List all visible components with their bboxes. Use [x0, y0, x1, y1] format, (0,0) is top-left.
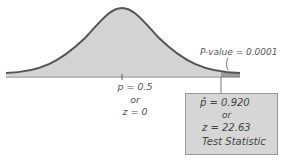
z-null-label: z = 0 [110, 106, 160, 117]
or-label: or [222, 110, 231, 120]
normal-distribution-diagram: p = 0.5 or z = 0 P-value = 0.0001 p̂ = 0… [0, 0, 287, 167]
p-value-arrow [227, 58, 229, 70]
p-null-label: p = 0.5 [110, 81, 160, 92]
z-value: z = 22.63 [202, 122, 251, 133]
p-value-label: P-value = 0.0001 [200, 47, 278, 57]
p-hat-value: p̂ = 0.920 [200, 97, 250, 108]
or-label: or [110, 94, 160, 105]
test-statistic-label: Test Statistic [202, 136, 266, 147]
test-statistic-box: p̂ = 0.920 or z = 22.63 Test Statistic [185, 93, 278, 155]
